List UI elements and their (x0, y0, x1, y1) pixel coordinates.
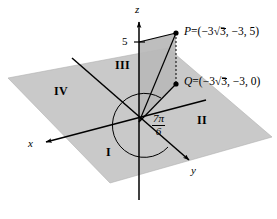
y-axis-label: y (191, 165, 196, 176)
quadrant-label-i: I (106, 146, 111, 158)
point-q-x-radical: √3 (215, 76, 227, 88)
point-p-x-prefix: −3 (201, 25, 213, 37)
radical-bar (222, 78, 227, 79)
point-q-x-prefix: −3 (203, 75, 215, 87)
point-q-close-paren: ) (256, 75, 260, 87)
quadrant-label-iv: IV (54, 85, 68, 97)
z-axis-label: z (135, 4, 139, 15)
point-q-marker (173, 81, 178, 86)
point-p-marker (173, 30, 178, 35)
point-q-label: Q=(−3√3, −3, 0) (184, 76, 260, 88)
point-p-y: , −3, (226, 25, 250, 37)
figure-container: x y z 5 I II III IV P=(−3√3, −3, 5) Q=(−… (0, 0, 277, 219)
angle-denominator: 6 (152, 125, 165, 138)
point-p-close-paren: ) (255, 25, 259, 37)
point-p-label: P=(−3√3, −3, 5) (184, 26, 259, 38)
angle-label: 7π 6 (152, 113, 165, 137)
point-p-x-radical: √3 (214, 26, 226, 38)
x-axis-label: x (28, 138, 33, 149)
angle-numerator: 7π (152, 113, 165, 125)
z-tick-label-5: 5 (122, 36, 128, 47)
radical-bar (221, 28, 226, 29)
quadrant-label-ii: II (197, 114, 207, 126)
point-p-name: P (184, 25, 191, 37)
point-q-y: , −3, (227, 75, 251, 87)
quadrant-label-iii: III (115, 59, 130, 71)
